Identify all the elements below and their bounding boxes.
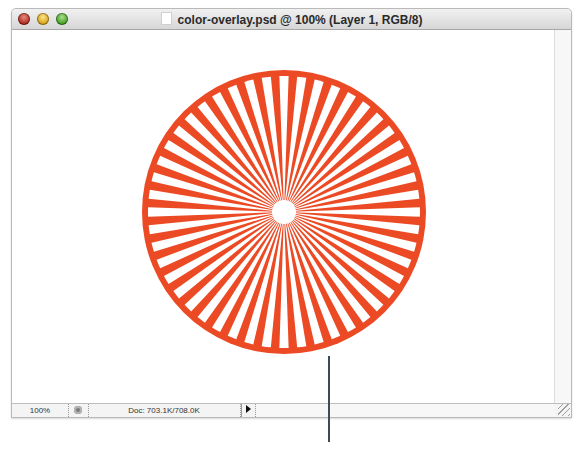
callout-line: [328, 356, 330, 442]
sunburst-artwork: [0, 0, 578, 449]
